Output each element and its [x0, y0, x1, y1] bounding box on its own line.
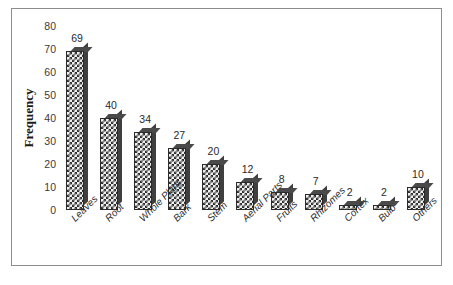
bar-slot: 10 — [399, 26, 433, 210]
bar-value-label: 34 — [139, 113, 151, 125]
bar-slot: 20 — [194, 26, 228, 210]
bar-value-label: 7 — [313, 175, 319, 187]
y-axis-tick: 40 — [44, 112, 56, 124]
y-axis-tick: 10 — [44, 181, 56, 193]
bar-value-label: 10 — [412, 168, 424, 180]
bar-value-label: 20 — [208, 145, 220, 157]
y-axis-tick-labels: 01020304050607080 — [30, 26, 56, 210]
figure-container: Frequency 01020304050607080 694034272012… — [0, 0, 453, 285]
bar-slot: 69 — [58, 26, 92, 210]
bar[interactable] — [134, 132, 152, 210]
y-axis-tick: 80 — [44, 20, 56, 32]
bar-value-label: 40 — [105, 99, 117, 111]
bar-value-label: 2 — [347, 186, 353, 198]
bar-slot: 2 — [331, 26, 365, 210]
bar-front-face — [134, 132, 152, 210]
bar-slot: 34 — [126, 26, 160, 210]
y-axis-tick: 20 — [44, 158, 56, 170]
bar-slot: 2 — [365, 26, 399, 210]
plot-area: 694034272012872210 — [58, 26, 433, 210]
y-axis-tick: 50 — [44, 89, 56, 101]
y-axis-tick: 0 — [50, 204, 56, 216]
bar[interactable] — [100, 118, 118, 210]
bar-slot: 12 — [228, 26, 262, 210]
bar-front-face — [66, 51, 84, 210]
bar-slot: 40 — [92, 26, 126, 210]
bar-slot: 7 — [297, 26, 331, 210]
bar-front-face — [100, 118, 118, 210]
bar-series: 694034272012872210 — [58, 26, 433, 210]
figure-caption — [16, 272, 436, 283]
y-axis-tick: 30 — [44, 135, 56, 147]
bar-value-label: 2 — [381, 186, 387, 198]
bar-value-label: 69 — [71, 32, 83, 44]
bar[interactable] — [66, 51, 84, 210]
bar-value-label: 27 — [173, 129, 185, 141]
y-axis-tick: 70 — [44, 43, 56, 55]
y-axis-tick: 60 — [44, 66, 56, 78]
bar-value-label: 12 — [242, 163, 254, 175]
